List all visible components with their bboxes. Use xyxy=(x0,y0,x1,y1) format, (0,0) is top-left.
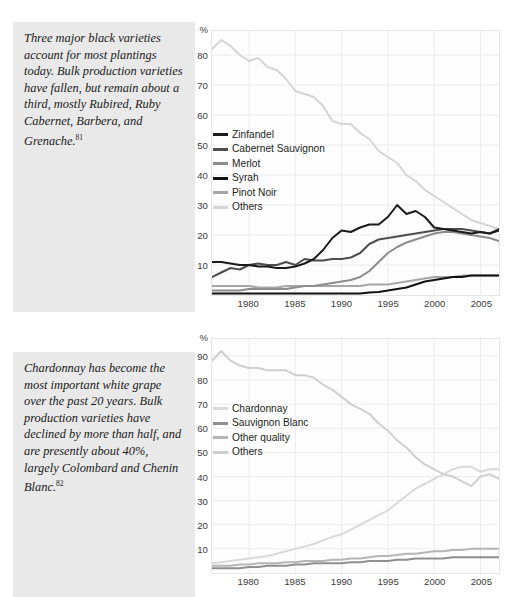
y-axis-tick: 50 xyxy=(197,140,208,151)
legend-swatch-icon xyxy=(213,177,228,180)
x-axis-tick: 1990 xyxy=(331,576,352,587)
legend-swatch-icon xyxy=(213,148,228,151)
y-axis-tick: 10 xyxy=(197,260,208,271)
legend-label: Chardonnay xyxy=(232,403,288,415)
legend-label: Syrah xyxy=(232,172,259,184)
figure-black-varieties: Three major black varieties account for … xyxy=(0,0,511,330)
legend-label: Cabernet Sauvignon xyxy=(232,143,325,155)
chart-1-legend: ZinfandelCabernet SauvignonMerlotSyrahPi… xyxy=(213,128,325,214)
x-axis-tick: 1985 xyxy=(284,576,305,587)
legend-swatch-icon xyxy=(213,191,228,194)
y-axis-tick: 40 xyxy=(197,170,208,181)
legend-label: Others xyxy=(232,446,263,458)
y-axis-tick: 10 xyxy=(197,543,208,554)
series-line xyxy=(212,229,499,277)
chart-2-x-axis: 198019851990199520002005 xyxy=(211,576,500,592)
figure-1-caption: Three major black varieties account for … xyxy=(13,22,195,312)
chart-black-varieties: % 8070605040302010 198019851990199520002… xyxy=(186,22,504,314)
legend-label: Merlot xyxy=(232,158,260,170)
caption-text: Three major black varieties account for … xyxy=(24,31,183,148)
legend-item[interactable]: Others xyxy=(213,201,325,215)
series-line xyxy=(212,205,499,268)
chart-white-varieties: % 908070605040302010 1980198519901995200… xyxy=(186,330,504,592)
chart-2-y-axis: % 908070605040302010 xyxy=(186,330,208,592)
legend-swatch-icon xyxy=(213,451,228,454)
legend-item[interactable]: Chardonnay xyxy=(213,402,308,416)
x-axis-tick: 2000 xyxy=(424,576,445,587)
legend-item[interactable]: Syrah xyxy=(213,172,325,186)
chart-1-y-axis: % 8070605040302010 xyxy=(186,22,208,314)
x-axis-tick: 1990 xyxy=(331,298,352,309)
x-axis-tick: 1995 xyxy=(377,298,398,309)
figure-white-varieties: Chardonnay has become the most important… xyxy=(0,330,511,597)
y-axis-tick: 70 xyxy=(197,80,208,91)
x-axis-tick: 1980 xyxy=(238,576,259,587)
y-axis-unit: % xyxy=(199,332,208,343)
legend-label: Others xyxy=(232,201,263,213)
legend-swatch-icon xyxy=(213,436,228,439)
legend-label: Other quality xyxy=(232,432,290,444)
y-axis-tick: 20 xyxy=(197,230,208,241)
x-axis-tick: 1995 xyxy=(377,576,398,587)
caption-footnote: 82 xyxy=(56,479,64,488)
x-axis-tick: 2000 xyxy=(424,298,445,309)
legend-item[interactable]: Cabernet Sauvignon xyxy=(213,143,325,157)
y-axis-tick: 30 xyxy=(197,200,208,211)
caption-text: Chardonnay has become the most important… xyxy=(24,361,181,494)
legend-label: Zinfandel xyxy=(232,129,274,141)
caption-footnote: 81 xyxy=(76,133,84,142)
x-axis-tick: 2005 xyxy=(471,298,492,309)
y-axis-tick: 60 xyxy=(197,110,208,121)
legend-item[interactable]: Sauvignon Blanc xyxy=(213,417,308,431)
series-line xyxy=(212,232,499,291)
y-axis-tick: 20 xyxy=(197,519,208,530)
x-axis-tick: 1985 xyxy=(284,298,305,309)
legend-item[interactable]: Merlot xyxy=(213,157,325,171)
legend-swatch-icon xyxy=(213,162,228,165)
y-axis-tick: 70 xyxy=(197,399,208,410)
legend-label: Pinot Noir xyxy=(232,187,277,199)
legend-swatch-icon xyxy=(213,422,228,425)
legend-item[interactable]: Others xyxy=(213,446,308,460)
y-axis-unit: % xyxy=(199,24,208,35)
figure-2-caption: Chardonnay has become the most important… xyxy=(13,352,195,597)
legend-item[interactable]: Other quality xyxy=(213,431,308,445)
chart-2-legend: ChardonnaySauvignon BlancOther qualityOt… xyxy=(213,402,308,459)
legend-swatch-icon xyxy=(213,206,228,209)
legend-item[interactable]: Zinfandel xyxy=(213,128,325,142)
y-axis-tick: 80 xyxy=(197,50,208,61)
x-axis-tick: 2005 xyxy=(471,576,492,587)
chart-1-x-axis: 198019851990199520002005 xyxy=(211,298,500,314)
legend-label: Sauvignon Blanc xyxy=(232,417,308,429)
legend-item[interactable]: Pinot Noir xyxy=(213,186,325,200)
y-axis-tick: 60 xyxy=(197,423,208,434)
x-axis-tick: 1980 xyxy=(238,298,259,309)
y-axis-tick: 90 xyxy=(197,350,208,361)
y-axis-tick: 30 xyxy=(197,495,208,506)
y-axis-tick: 80 xyxy=(197,375,208,386)
legend-swatch-icon xyxy=(213,407,228,410)
y-axis-tick: 50 xyxy=(197,447,208,458)
y-axis-tick: 40 xyxy=(197,471,208,482)
legend-swatch-icon xyxy=(213,133,228,136)
